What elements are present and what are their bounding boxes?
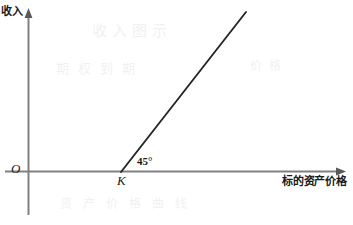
y-axis bbox=[25, 8, 33, 215]
payoff-chart: 收入图示 期权到期 资产价格曲线 价格 收入 标的资产价格 O K 45° bbox=[0, 0, 353, 225]
origin-label: O bbox=[11, 162, 20, 175]
payoff-line bbox=[121, 12, 246, 172]
angle-annotation-label: 45° bbox=[137, 156, 152, 167]
strike-price-label: K bbox=[117, 174, 126, 187]
chart-canvas bbox=[0, 0, 353, 225]
y-axis-arrowhead bbox=[25, 8, 33, 18]
y-axis-label: 收入 bbox=[1, 6, 22, 17]
x-axis-label: 标的资产价格 bbox=[282, 176, 347, 187]
